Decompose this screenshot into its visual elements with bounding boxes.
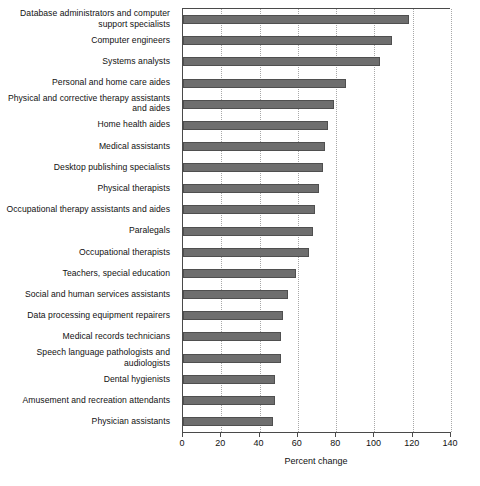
bar — [183, 121, 328, 130]
category-label: Systems analysts — [0, 50, 176, 71]
bar — [183, 142, 325, 151]
bar — [183, 205, 315, 214]
bar — [183, 375, 275, 384]
bar — [183, 163, 323, 172]
category-label: Amusement and recreation attendants — [0, 390, 176, 411]
category-label: Personal and home care aides — [0, 72, 176, 93]
bar-row — [183, 263, 450, 284]
bars-layer — [183, 9, 450, 432]
bar-row — [183, 51, 450, 72]
tick-label: 120 — [404, 438, 419, 448]
tick-label: 20 — [215, 438, 225, 448]
tick-label: 0 — [179, 438, 184, 448]
tick-label: 80 — [330, 438, 340, 448]
tick-mark — [412, 432, 413, 437]
bar — [183, 269, 296, 278]
bar-row — [183, 242, 450, 263]
tick-mark — [373, 432, 374, 437]
category-label: Speech language pathologists and audiolo… — [0, 347, 176, 368]
tick-label: 60 — [292, 438, 302, 448]
bar — [183, 290, 288, 299]
tick-mark — [182, 432, 183, 437]
bar-row — [183, 326, 450, 347]
category-label: Computer engineers — [0, 29, 176, 50]
bar — [183, 184, 319, 193]
category-label: Desktop publishing specialists — [0, 156, 176, 177]
category-label: Home health aides — [0, 114, 176, 135]
plot-area — [182, 8, 450, 432]
category-label-column: Database administrators and computer sup… — [0, 8, 176, 432]
bar — [183, 100, 334, 109]
bar-row — [183, 94, 450, 115]
bar-row — [183, 115, 450, 136]
category-label: Data processing equipment repairers — [0, 305, 176, 326]
gridline — [451, 9, 452, 432]
x-axis-title: Percent change — [182, 456, 450, 466]
category-label: Physical therapists — [0, 178, 176, 199]
bar-row — [183, 284, 450, 305]
category-label: Dental hygienists — [0, 368, 176, 389]
tick-mark — [335, 432, 336, 437]
bar-row — [183, 305, 450, 326]
tick-mark — [450, 432, 451, 437]
category-label: Database administrators and computer sup… — [0, 8, 176, 29]
category-label: Medical assistants — [0, 135, 176, 156]
bar-row — [183, 136, 450, 157]
bar — [183, 396, 275, 405]
bar-row — [183, 199, 450, 220]
tick-label: 100 — [366, 438, 381, 448]
bar — [183, 332, 281, 341]
category-label: Physical and corrective therapy assistan… — [0, 93, 176, 114]
percent-change-bar-chart: Database administrators and computer sup… — [0, 0, 480, 486]
tick-label: 140 — [442, 438, 457, 448]
bar — [183, 227, 313, 236]
bar-row — [183, 72, 450, 93]
tick-mark — [220, 432, 221, 437]
category-label: Teachers, special education — [0, 262, 176, 283]
bar-row — [183, 221, 450, 242]
x-axis-tick-marks — [182, 432, 450, 437]
bar — [183, 417, 273, 426]
bar-row — [183, 411, 450, 432]
tick-mark — [297, 432, 298, 437]
x-axis-tick-labels: 020406080100120140 — [182, 438, 450, 452]
bar — [183, 248, 309, 257]
bar-row — [183, 178, 450, 199]
category-label: Occupational therapy assistants and aide… — [0, 199, 176, 220]
category-label: Medical records technicians — [0, 326, 176, 347]
category-label: Paralegals — [0, 220, 176, 241]
bar-row — [183, 369, 450, 390]
category-label: Social and human services assistants — [0, 284, 176, 305]
category-label: Physician assistants — [0, 411, 176, 432]
bar — [183, 15, 409, 24]
bar-row — [183, 348, 450, 369]
bar-row — [183, 157, 450, 178]
bar — [183, 311, 283, 320]
bar — [183, 36, 392, 45]
bar — [183, 57, 380, 66]
tick-mark — [259, 432, 260, 437]
bar — [183, 79, 346, 88]
bar-row — [183, 30, 450, 51]
category-label: Occupational therapists — [0, 241, 176, 262]
bar-row — [183, 9, 450, 30]
tick-label: 40 — [254, 438, 264, 448]
bar — [183, 354, 281, 363]
bar-row — [183, 390, 450, 411]
